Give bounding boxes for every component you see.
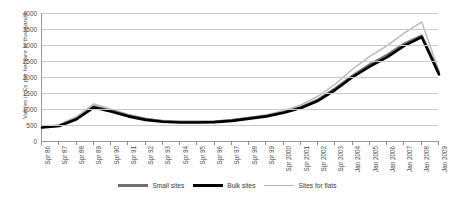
gridline <box>42 109 438 110</box>
x-axis-tick <box>352 141 353 145</box>
y-axis-tick-label: 3500 <box>23 26 37 33</box>
gridline <box>42 29 438 30</box>
x-axis-tick-label: Spr 2002 <box>320 146 327 172</box>
x-axis-tick <box>58 141 59 145</box>
x-axis-tick-label: Spr 98 <box>251 146 258 165</box>
y-axis-tick-label: 1000 <box>23 106 37 113</box>
legend-item-small-sites: Small sites <box>118 182 184 189</box>
x-axis-tick <box>110 141 111 145</box>
x-axis-tick <box>300 141 301 145</box>
x-axis-tick <box>41 141 42 145</box>
y-axis-tick-label: 2000 <box>23 74 37 81</box>
y-axis-tick-label: 2500 <box>23 58 37 65</box>
x-axis-tick <box>369 141 370 145</box>
x-axis-tick-label: Spr 2001 <box>303 146 310 172</box>
series-line-sites-for-flats <box>42 22 439 127</box>
x-axis-tick-label: Jan 2004 <box>354 146 361 172</box>
x-axis-tick <box>76 141 77 145</box>
legend-swatch-sites-for-flats-icon <box>264 185 294 186</box>
x-axis-tick <box>283 141 284 145</box>
plot-area <box>41 13 438 141</box>
x-axis-tick-label: Spr 87 <box>61 146 68 165</box>
y-axis-tick-label: 4000 <box>23 10 37 17</box>
x-axis-tick-label: Jan 2008 <box>423 146 430 172</box>
x-axis-tick-label: Spr 99 <box>268 146 275 165</box>
x-axis-tick <box>438 141 439 145</box>
y-axis-tick-labels: 05001000150020002500300035004000 <box>0 0 40 160</box>
x-axis-tick <box>421 141 422 145</box>
x-axis-tick-label: Spr 95 <box>199 146 206 165</box>
gridline <box>42 45 438 46</box>
gridline <box>42 125 438 126</box>
x-axis-tick <box>162 141 163 145</box>
legend-item-bulk-sites: Bulk sites <box>193 182 255 189</box>
x-axis-tick <box>231 141 232 145</box>
x-axis-tick <box>179 141 180 145</box>
x-axis-tick-label: Spr 89 <box>95 146 102 165</box>
x-axis-tick <box>248 141 249 145</box>
x-axis-tick-label: Spr 96 <box>216 146 223 165</box>
x-axis-tick <box>403 141 404 145</box>
x-axis-tick <box>196 141 197 145</box>
x-axis-tick-label: Spr 94 <box>182 146 189 165</box>
x-axis-tick-label: Spr 2000 <box>285 146 292 172</box>
x-axis-tick <box>334 141 335 145</box>
gridline <box>42 13 438 14</box>
legend-label-bulk-sites: Bulk sites <box>227 182 255 189</box>
x-axis-tick-label: Spr 92 <box>147 146 154 165</box>
legend-swatch-small-sites-icon <box>118 184 148 186</box>
x-axis-tick <box>214 141 215 145</box>
legend-item-sites-for-flats: Sites for flats <box>264 182 336 189</box>
y-axis-tick-label: 0 <box>33 138 37 145</box>
y-axis-tick-label: 3000 <box>23 42 37 49</box>
x-axis-tick-label: Spr 88 <box>78 146 85 165</box>
x-axis-tick-label: Spr 2003 <box>337 146 344 172</box>
chart-legend: Small sites Bulk sites Sites for flats <box>0 182 455 189</box>
x-axis-tick <box>93 141 94 145</box>
x-axis-tick <box>145 141 146 145</box>
x-axis-tick-label: Spr 90 <box>113 146 120 165</box>
legend-label-small-sites: Small sites <box>152 182 184 189</box>
series-line-small-sites <box>42 35 439 127</box>
x-axis-tick-label: Spr 91 <box>130 146 137 165</box>
x-axis-tick <box>317 141 318 145</box>
line-chart: Values in £s per hectare in thousands 05… <box>0 0 455 202</box>
x-axis-tick <box>127 141 128 145</box>
legend-swatch-bulk-sites-icon <box>193 184 223 187</box>
x-axis-tick <box>265 141 266 145</box>
x-axis-tick-label: Jan 2007 <box>406 146 413 172</box>
x-axis-tick-label: Spr 97 <box>233 146 240 165</box>
x-axis-tick-labels: Spr 86Spr 87Spr 88Spr 89Spr 90Spr 91Spr … <box>41 146 438 178</box>
y-axis-tick-label: 1500 <box>23 90 37 97</box>
x-axis-tick <box>386 141 387 145</box>
y-axis-tick-label: 500 <box>26 122 37 129</box>
gridline <box>42 61 438 62</box>
x-axis-tick-label: Spr 86 <box>44 146 51 165</box>
x-axis-tick-label: Jan 2005 <box>372 146 379 172</box>
x-axis-tick-label: Jan 2006 <box>389 146 396 172</box>
gridline <box>42 93 438 94</box>
x-axis-tick-label: Jan 2009 <box>441 146 448 172</box>
x-axis-tick-label: Spr 93 <box>164 146 171 165</box>
legend-label-sites-for-flats: Sites for flats <box>298 182 336 189</box>
gridline <box>42 77 438 78</box>
